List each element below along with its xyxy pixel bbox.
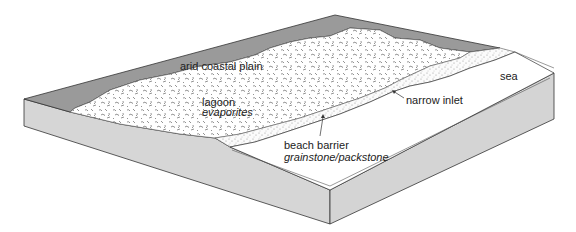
label-beach-barrier: beach barrier xyxy=(284,139,349,151)
label-coastal-plain: arid coastal plain xyxy=(180,60,263,72)
block-diagram xyxy=(0,0,576,232)
label-grainstone-packstone: grainstone/packstone xyxy=(284,151,389,163)
label-sea: sea xyxy=(500,70,518,82)
label-narrow-inlet: narrow inlet xyxy=(406,94,463,106)
label-evaporites: evaporites xyxy=(202,106,253,118)
